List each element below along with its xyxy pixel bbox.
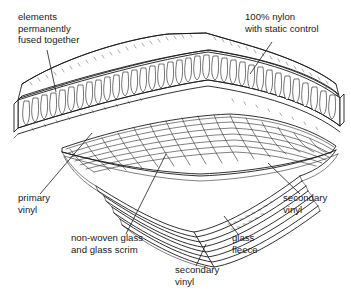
label-line: secondary — [175, 264, 219, 275]
label-line: fleece — [232, 244, 258, 255]
carpet-construction-diagram: elements permanently fused together 100%… — [0, 0, 351, 302]
label-line: glass — [232, 232, 255, 243]
svg-text:glass fleece: glass fleece — [232, 232, 278, 255]
label-line: elements — [18, 11, 57, 22]
pile-left-end-face — [14, 100, 18, 132]
svg-text:non-woven glass and gl: non-woven glass and glass scrim — [71, 232, 167, 255]
label-line: non-woven glass — [71, 232, 143, 243]
label-line: vinyl — [175, 276, 194, 287]
diagram-page: elements permanently fused together 100%… — [0, 0, 351, 302]
label-line: permanently — [18, 23, 71, 34]
label-line: secondary — [283, 192, 327, 203]
label-line: vinyl — [283, 204, 302, 215]
label-line: vinyl — [18, 204, 37, 215]
label-line: fused together — [18, 34, 80, 45]
label-glass-fleece: glass fleece — [232, 232, 278, 255]
label-non-woven-glass: non-woven glass and glass scrim — [71, 232, 167, 255]
label-line: primary — [18, 192, 50, 203]
label-line: 100% nylon — [245, 11, 295, 22]
label-line: and glass scrim — [71, 244, 138, 255]
label-line: with static control — [244, 23, 319, 34]
pile-right-end-face — [340, 94, 344, 126]
